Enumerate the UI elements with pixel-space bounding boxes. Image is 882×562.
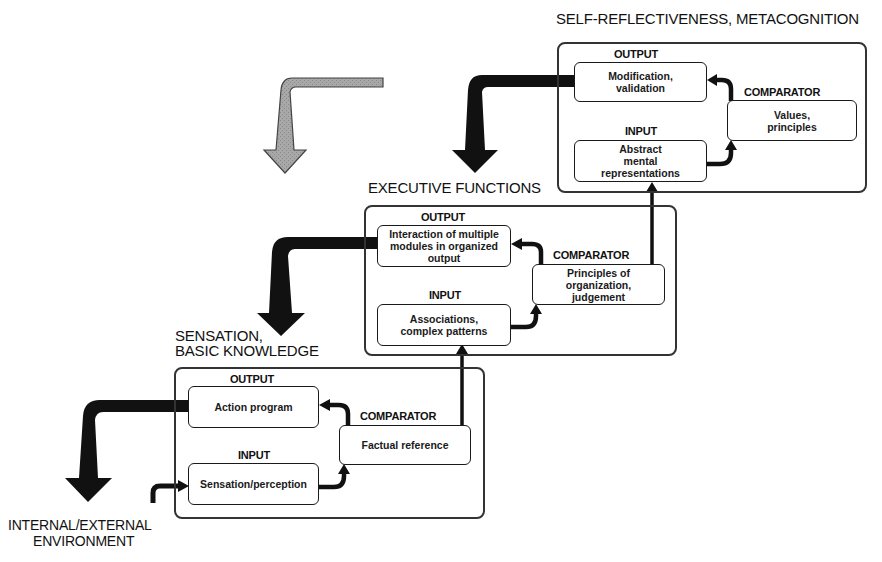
executive-input-box: Associations, complex patterns <box>377 304 511 346</box>
sensation-input-box: Sensation/perception <box>188 463 319 505</box>
sensation-title-line1: SENSATION, <box>175 328 263 343</box>
sensation-input-text: Sensation/perception <box>200 478 307 490</box>
gray-bent-arrow-icon <box>264 78 383 173</box>
executive-comparator-label: COMPARATOR <box>553 249 629 261</box>
sensation-title-line2: BASIC KNOWLEDGE <box>175 343 319 358</box>
executive-input-text: Associations, complex patterns <box>401 313 488 337</box>
metacognition-input-text: Abstract mental representations <box>601 143 680 179</box>
sensation-output-label: OUTPUT <box>230 373 274 385</box>
executive-comparator-box: Principles of organization, judgement <box>532 264 665 305</box>
executive-comparator-text: Principles of organization, judgement <box>566 267 631 303</box>
metacognition-input-box: Abstract mental representations <box>574 140 707 182</box>
sensation-output-box: Action program <box>188 386 319 428</box>
executive-output-label: OUTPUT <box>421 211 465 223</box>
metacognition-comparator-text: Values, principles <box>767 109 817 133</box>
sensation-input-label: INPUT <box>238 449 270 461</box>
sensation-comparator-box: Factual reference <box>339 425 471 465</box>
metacognition-output-box: Modification, validation <box>574 62 707 102</box>
executive-title: EXECUTIVE FUNCTIONS <box>368 180 541 195</box>
metacognition-output-arrow-icon <box>452 75 574 173</box>
sensation-comparator-text: Factual reference <box>362 439 449 451</box>
environment-label-line2: ENVIRONMENT <box>33 534 134 549</box>
metacognition-comparator-box: Values, principles <box>727 100 857 141</box>
metacognition-output-label: OUTPUT <box>614 48 658 60</box>
sensation-comparator-label: COMPARATOR <box>360 410 436 422</box>
executive-output-arrow-icon <box>257 237 377 336</box>
executive-output-text: Interaction of multiple modules in organ… <box>389 228 499 264</box>
environment-label-line1: INTERNAL/EXTERNAL <box>8 518 152 533</box>
metacognition-output-text: Modification, validation <box>608 70 673 94</box>
metacognition-title: SELF-REFLECTIVENESS, METACOGNITION <box>556 11 859 26</box>
sensation-output-text: Action program <box>214 401 292 413</box>
metacognition-input-label: INPUT <box>625 125 657 137</box>
executive-output-box: Interaction of multiple modules in organ… <box>377 225 511 267</box>
executive-input-label: INPUT <box>429 289 461 301</box>
metacognition-comparator-label: COMPARATOR <box>744 86 820 98</box>
